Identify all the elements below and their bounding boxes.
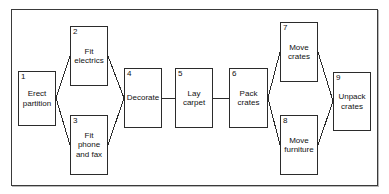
connector-1-to-3 [56, 98, 70, 145]
node-box-3[interactable]: 3Fit phone and fax [70, 115, 108, 175]
node-number-5: 5 [178, 69, 182, 78]
connector-7-to-9 [318, 52, 333, 101]
connector-6-to-7 [268, 52, 280, 98]
connector-1-to-2 [56, 56, 70, 98]
node-label-7: Move crates [287, 43, 311, 62]
node-box-2[interactable]: 2Fit electrics [70, 26, 108, 86]
connector-3-to-4 [108, 98, 124, 145]
connector-2-to-4 [108, 56, 124, 98]
node-label-1: Erect partition [22, 89, 52, 108]
connector-8-to-9 [318, 101, 333, 145]
node-box-8[interactable]: 8Move furniture [280, 115, 318, 175]
node-label-3: Fit phone and fax [75, 131, 103, 160]
node-number-7: 7 [283, 23, 287, 32]
node-label-6: Pack crates [237, 89, 261, 108]
node-label-2: Fit electrics [73, 47, 104, 66]
node-box-9[interactable]: 9Unpack crates [333, 72, 371, 131]
node-box-6[interactable]: 6Pack crates [229, 68, 268, 128]
node-label-5: Lay carpet [182, 89, 206, 108]
node-box-5[interactable]: 5Lay carpet [175, 68, 213, 128]
node-box-4[interactable]: 4Decorate [124, 68, 162, 128]
connector-6-to-8 [268, 98, 280, 145]
node-label-8: Move furniture [283, 136, 314, 155]
node-label-4: Decorate [126, 93, 160, 103]
node-number-1: 1 [21, 72, 25, 81]
node-number-4: 4 [127, 69, 131, 78]
node-number-8: 8 [283, 116, 287, 125]
node-number-2: 2 [73, 27, 77, 36]
node-label-9: Unpack crates [337, 92, 366, 111]
diagram-screenshot: 1Erect partition2Fit electrics3Fit phone… [0, 0, 389, 194]
node-box-7[interactable]: 7Move crates [280, 22, 318, 82]
node-box-1[interactable]: 1Erect partition [18, 71, 56, 126]
node-number-3: 3 [73, 116, 77, 125]
node-number-6: 6 [232, 69, 236, 78]
node-number-9: 9 [336, 73, 340, 82]
